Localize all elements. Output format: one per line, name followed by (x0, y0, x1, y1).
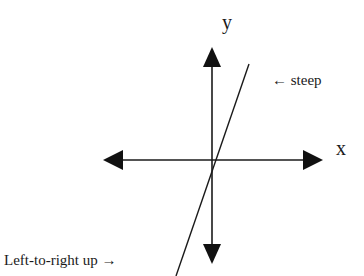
x-axis-right-arrow-icon (303, 150, 323, 170)
left-to-right-up-annotation: Left-to-right up → (4, 253, 116, 268)
x-axis-label: x (336, 138, 346, 158)
y-axis-down-arrow-icon (203, 244, 221, 264)
x-axis-left-arrow-icon (103, 150, 123, 170)
y-axis-up-arrow-icon (203, 47, 221, 67)
slope-diagram: y x ← steep Left-to-right up → (0, 0, 364, 276)
y-axis-label: y (222, 12, 232, 32)
coordinate-plane (0, 0, 364, 276)
steep-annotation: ← steep (272, 73, 322, 88)
